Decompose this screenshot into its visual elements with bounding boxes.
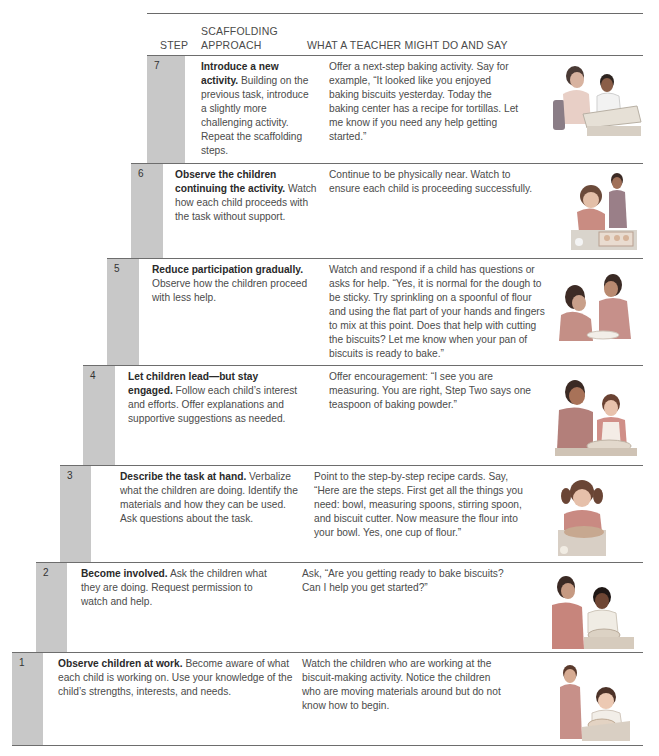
table-row-step-3: 3 Describe the task at hand. Verbalize w…: [60, 465, 643, 562]
table-row-step-2: 2 Become involved. Ask the children what…: [36, 562, 643, 652]
teacher-action: Point to the step-by-step recipe cards. …: [314, 470, 532, 540]
step-bar: [12, 653, 43, 745]
step-number: 1: [19, 657, 25, 668]
step-number: 2: [43, 567, 49, 578]
step-number: 3: [67, 470, 73, 481]
step-bar: [131, 164, 163, 258]
approach-title: Observe children at work.: [58, 658, 183, 669]
scaffolding-approach: Describe the task at hand. Verbalize wha…: [120, 470, 305, 526]
approach-title: Describe the task at hand.: [120, 471, 246, 482]
table-row-step-1: 1 Observe children at work. Become aware…: [12, 652, 643, 745]
scaffolding-approach: Introduce a new activity. Building on th…: [201, 60, 309, 158]
teacher-helping-child-with-dough-illustration: [553, 271, 641, 349]
scaffolding-approach: Observe children at work. Become aware o…: [58, 657, 296, 699]
step-bar: [107, 259, 139, 365]
step-bar: [60, 466, 91, 562]
table-header: STEP SCAFFOLDING APPROACH WHAT A TEACHER…: [147, 14, 643, 55]
header-teacher: WHAT A TEACHER MIGHT DO AND SAY: [307, 38, 508, 52]
teacher-action: Offer a next-step baking activity. Say f…: [329, 60, 519, 144]
header-step: STEP: [160, 38, 188, 52]
teacher-and-child-measuring-illustration: [549, 376, 639, 458]
table-row-step-4: 4 Let children lead—but stay engaged. Fo…: [83, 365, 643, 465]
scaffolding-approach: Observe the children continuing the acti…: [175, 168, 325, 224]
teacher-action: Watch and respond if a child has questio…: [329, 263, 547, 361]
scaffolding-approach: Let children lead—but stay engaged. Foll…: [128, 370, 303, 426]
step-number: 7: [154, 60, 160, 71]
table-bottom-rule: [12, 745, 643, 746]
approach-body: Observe how the children proceed with le…: [152, 278, 307, 303]
teacher-action: Ask, “Are you getting ready to bake bisc…: [302, 567, 522, 595]
teacher-and-child-at-table-illustration: [547, 60, 643, 138]
scaffolding-approach: Reduce participation gradually. Observe …: [152, 263, 322, 305]
step-number: 5: [114, 263, 120, 274]
teacher-action: Continue to be physically near. Watch to…: [329, 168, 544, 196]
header-approach: SCAFFOLDING APPROACH: [201, 24, 321, 52]
child-measuring-flour-illustration: [554, 474, 610, 558]
table-row-step-6: 6 Observe the children continuing the ac…: [131, 163, 643, 258]
step-bar: [83, 366, 115, 465]
step-bar: [147, 56, 185, 163]
step-bar: [36, 563, 67, 652]
table-row-step-7: 7 Introduce a new activity. Building on …: [147, 55, 643, 163]
teacher-talking-with-child-illustration: [544, 573, 636, 651]
child-cutting-biscuits-teacher-watching-illustration: [569, 170, 639, 252]
teacher-action: Watch the children who are working at th…: [302, 657, 507, 713]
approach-title: Become involved.: [81, 568, 168, 579]
teacher-observing-child-illustration: [552, 661, 632, 743]
approach-title: Reduce participation gradually.: [152, 264, 303, 275]
approach-title: Observe the children continuing the acti…: [175, 169, 285, 194]
scaffolding-approach: Become involved. Ask the children what t…: [81, 567, 271, 609]
step-number: 4: [90, 370, 96, 381]
step-number: 6: [138, 168, 144, 179]
teacher-action: Offer encouragement: “I see you are meas…: [329, 370, 539, 412]
approach-body: Building on the previous task, introduce…: [201, 75, 309, 156]
table-row-step-5: 5 Reduce participation gradually. Observ…: [107, 258, 643, 365]
